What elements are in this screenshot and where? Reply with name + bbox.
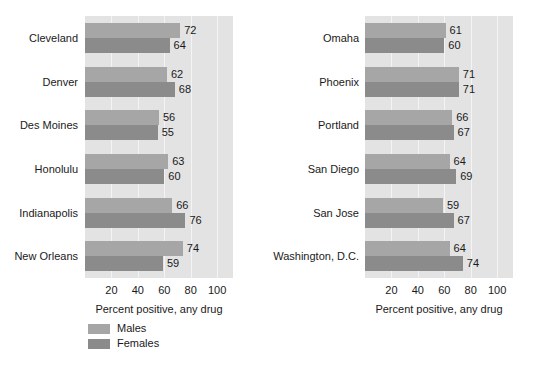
gridline: [217, 16, 218, 278]
category-label: Cleveland: [0, 32, 78, 44]
bar-value-label: 67: [454, 213, 470, 228]
category-label: Des Moines: [0, 119, 78, 131]
bar-females: [85, 213, 185, 228]
gridline: [391, 16, 392, 278]
category-label: San Jose: [219, 207, 359, 219]
bar-males: [85, 23, 180, 38]
category-label: Omaha: [219, 32, 359, 44]
bar-value-label: 71: [459, 82, 475, 97]
bar-value-label: 66: [172, 198, 188, 213]
legend-item-females: Females: [88, 337, 159, 350]
bar-value-label: 63: [168, 154, 184, 169]
category-label: Phoenix: [219, 76, 359, 88]
category-label: San Diego: [219, 163, 359, 175]
gridline: [444, 16, 445, 278]
bar-value-label: 74: [183, 241, 199, 256]
category-label: New Orleans: [0, 250, 78, 262]
figure: ClevelandDenverDes MoinesHonoluluIndiana…: [0, 0, 537, 369]
plot-area-left: [85, 16, 233, 278]
bar-males: [85, 110, 159, 125]
x-axis-title-left: Percent positive, any drug: [85, 303, 233, 315]
bar-females: [85, 82, 175, 97]
category-label: Indianapolis: [0, 207, 78, 219]
bar-value-label: 67: [454, 125, 470, 140]
bar-value-label: 69: [456, 169, 472, 184]
bar-males: [365, 23, 446, 38]
bar-value-label: 62: [167, 67, 183, 82]
bar-value-label: 71: [459, 67, 475, 82]
gridline: [191, 16, 192, 278]
gridline: [164, 16, 165, 278]
bar-males: [365, 198, 443, 213]
bar-males: [365, 154, 450, 169]
legend-item-males: Males: [88, 322, 159, 335]
x-tick-label: 100: [202, 284, 232, 296]
bar-value-label: 64: [170, 38, 186, 53]
chart-panel-left: ClevelandDenverDes MoinesHonoluluIndiana…: [0, 0, 268, 369]
bar-males: [85, 198, 172, 213]
bar-males: [85, 154, 168, 169]
legend-swatch-males-icon: [88, 324, 110, 334]
bar-value-label: 59: [163, 256, 179, 271]
bar-females: [85, 38, 170, 53]
chart-panel-right: OmahaPhoenixPortlandSan DiegoSan JoseWas…: [268, 0, 537, 369]
gridline: [497, 16, 498, 278]
bar-value-label: 72: [180, 23, 196, 38]
category-label: Honolulu: [0, 163, 78, 175]
bar-value-label: 56: [159, 110, 175, 125]
bar-value-label: 68: [175, 82, 191, 97]
gridline: [471, 16, 472, 278]
gridline: [111, 16, 112, 278]
category-label: Denver: [0, 76, 78, 88]
bar-females: [85, 256, 163, 271]
legend-swatch-females-icon: [88, 339, 110, 349]
bar-value-label: 61: [446, 23, 462, 38]
bar-value-label: 55: [158, 125, 174, 140]
legend-label-males: Males: [117, 323, 146, 334]
bar-value-label: 64: [450, 154, 466, 169]
bar-females: [365, 125, 454, 140]
bar-value-label: 59: [443, 198, 459, 213]
bar-value-label: 64: [450, 241, 466, 256]
gridline: [418, 16, 419, 278]
bar-value-label: 76: [185, 213, 201, 228]
bar-females: [85, 125, 158, 140]
bar-females: [365, 169, 456, 184]
plot-area-right: [365, 16, 513, 278]
bar-females: [365, 38, 444, 53]
bar-males: [365, 67, 459, 82]
bar-males: [85, 241, 183, 256]
bar-males: [365, 110, 452, 125]
chart-legend: Males Females: [88, 322, 159, 352]
gridline: [138, 16, 139, 278]
category-label: Portland: [219, 119, 359, 131]
bar-females: [365, 213, 454, 228]
bar-value-label: 74: [463, 256, 479, 271]
bar-females: [85, 169, 164, 184]
x-axis-title-right: Percent positive, any drug: [365, 303, 513, 315]
bar-males: [365, 241, 450, 256]
bar-value-label: 66: [452, 110, 468, 125]
bar-females: [365, 82, 459, 97]
bar-value-label: 60: [444, 38, 460, 53]
bar-males: [85, 67, 167, 82]
legend-label-females: Females: [117, 338, 159, 349]
bar-value-label: 60: [164, 169, 180, 184]
bar-females: [365, 256, 463, 271]
x-tick-label: 100: [482, 284, 512, 296]
category-label: Washington, D.C.: [219, 250, 359, 262]
